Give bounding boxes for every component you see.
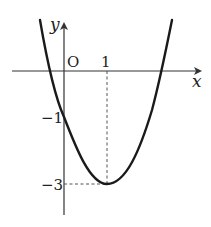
x-tick-label-1: 1 [101, 53, 111, 71]
parabola-curve [40, 20, 172, 184]
y-tick-label-minus1: −1 [41, 109, 63, 127]
origin-label: O [67, 53, 79, 71]
x-axis-label: x [192, 71, 202, 91]
y-axis-label: y [49, 14, 60, 34]
y-tick-label-minus3: −3 [41, 176, 63, 194]
graph-canvas: y x O 1 −1 −3 [0, 0, 211, 227]
